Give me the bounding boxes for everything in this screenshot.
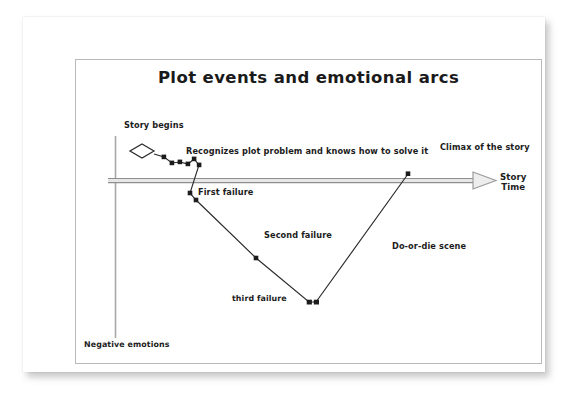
marker-climax [406,171,411,176]
marker-second-failure [254,256,259,261]
marker-point [162,155,167,160]
slide-frame: Plot events and emotional arcs [75,59,542,364]
x-axis-arrowhead [473,172,496,189]
screenshot-canvas: Plot events and emotional arcs [0,0,571,396]
emotional-arc-line [154,154,408,302]
annotation-first-failure: First failure [198,187,254,197]
arc-path [154,154,408,302]
marker-point [314,300,319,305]
arc-markers [130,144,410,305]
annotation-do-or-die-scene: Do-or-die scene [392,241,466,251]
marker-first-failure [188,191,193,196]
annotation-story-begins: Story begins [124,120,184,130]
marker-story-begins-diamond [130,144,154,158]
marker-point [186,162,191,167]
marker-third-failure [307,300,312,305]
marker-point [170,161,175,166]
marker-point [197,163,202,168]
emotional-arc-chart [76,60,543,365]
annotation-recognizes-problem: Recognizes plot problem and knows how to… [186,146,428,156]
y-axis-label-negative-emotions: Negative emotions [84,340,170,349]
marker-point [192,157,197,162]
plot-area: Story begins Recognizes plot problem and… [76,60,541,363]
x-axis-label-line-2: Time [500,183,527,193]
paper-sheet: Plot events and emotional arcs [23,17,545,372]
annotation-third-failure: third failure [232,294,287,303]
x-axis [108,172,496,189]
annotation-climax-of-the-story: Climax of the story [440,142,530,152]
annotation-second-failure: Second failure [264,230,332,240]
marker-point [194,198,199,203]
x-axis-label: Story Time [500,173,527,193]
marker-point [178,160,183,165]
